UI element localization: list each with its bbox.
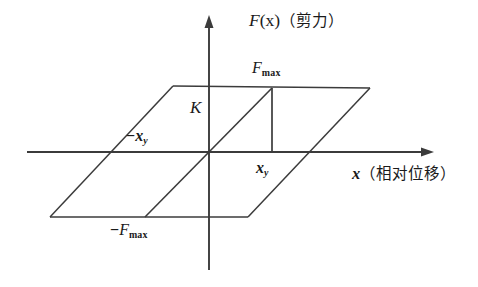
neg-x-yield-subscript: y xyxy=(143,135,148,146)
neg-f-max-subscript: max xyxy=(129,229,148,240)
y-axis-arrowhead xyxy=(205,15,214,28)
x-yield-symbol: x xyxy=(256,159,264,176)
neg-x-yield-label: −xy xyxy=(126,128,148,144)
x-axis-label: x（相对位移） xyxy=(352,166,456,183)
hysteresis-figure: F(x)（剪力） x（相对位移） Fmax −Fmax −xy xy K xyxy=(0,0,478,287)
x-axis-arrowhead xyxy=(421,148,434,157)
x-yield-label: xy xyxy=(256,160,269,176)
neg-x-yield-symbol: x xyxy=(135,127,143,144)
y-axis-label: F(x)（剪力） xyxy=(249,12,344,30)
hysteresis-diagram-canvas xyxy=(0,0,478,287)
x-yield-subscript: y xyxy=(264,167,269,178)
y-axis-argument: (x) xyxy=(260,10,280,30)
x-axis-group xyxy=(27,148,434,157)
f-max-subscript: max xyxy=(262,67,281,78)
y-axis-cjk-label: （剪力） xyxy=(280,12,344,30)
y-axis-symbol: F xyxy=(249,10,260,30)
x-axis-symbol: x xyxy=(352,164,360,183)
f-max-label: Fmax xyxy=(252,60,281,76)
y-axis-group xyxy=(205,15,214,270)
f-max-symbol: F xyxy=(252,59,262,76)
neg-f-max-label: −Fmax xyxy=(110,222,148,238)
neg-x-yield-minus: − xyxy=(126,127,135,144)
stiffness-label-K: K xyxy=(190,99,201,116)
x-axis-cjk-label: （相对位移） xyxy=(360,165,456,183)
neg-f-max-minus: − xyxy=(110,221,119,238)
neg-f-max-symbol: F xyxy=(119,221,129,238)
